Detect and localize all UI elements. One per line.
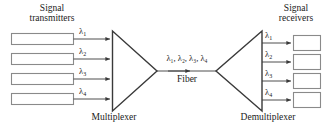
signal-receivers-caption-line2: receivers [279,14,313,24]
transmitter-lambda-subscript-4: 4 [83,91,86,97]
transmitter-wavelength-label-4: λ4 [79,87,86,96]
multiplexer-label: Multiplexer [92,113,137,123]
receiver-box-3 [294,74,321,89]
fiber-wavelengths-label: λ₁, λ₂, λ₃, λ₄ [166,54,207,63]
demultiplexer-triangle [216,31,262,111]
signal-transmitters-caption: Signal transmitters [30,4,75,24]
receiver-wavelength-label-4: λ4 [265,88,272,97]
signal-receivers-caption: Signal receivers [279,4,313,24]
receiver-lambda-subscript-4: 4 [269,92,272,98]
transmitter-box-3 [12,74,74,85]
receiver-wavelength-label-2: λ2 [265,50,272,59]
receiver-box-1 [294,36,321,51]
receiver-box-4 [294,93,321,108]
transmitter-wavelength-label-2: λ2 [79,47,86,56]
transmitter-box-1 [12,34,74,45]
receiver-boxes [294,36,321,108]
receiver-lambda-subscript-2: 2 [269,54,272,60]
demultiplexer-label: Demultiplexer [241,113,296,123]
transmitter-boxes [12,34,74,105]
transmitter-wavelength-label-1: λ1 [79,27,86,36]
receiver-box-2 [294,55,321,70]
transmitter-lambda-subscript-3: 3 [83,71,86,77]
fiber-name-label: Fiber [177,75,197,85]
signal-transmitters-caption-line2: transmitters [30,14,75,24]
transmitter-box-2 [12,54,74,65]
wdm-diagram: Signal transmitters Signal receivers λ1 … [0,0,335,133]
transmitter-box-4 [12,94,74,105]
transmitter-lambda-subscript-1: 1 [83,31,86,37]
multiplexer-triangle [113,31,158,111]
receiver-wavelength-label-3: λ3 [265,69,272,78]
receiver-lambda-subscript-3: 3 [269,73,272,79]
receiver-lambda-subscript-1: 1 [269,35,272,41]
transmitter-wavelength-label-3: λ3 [79,67,86,76]
transmitter-lambda-subscript-2: 2 [83,51,86,57]
receiver-wavelength-label-1: λ1 [265,31,272,40]
